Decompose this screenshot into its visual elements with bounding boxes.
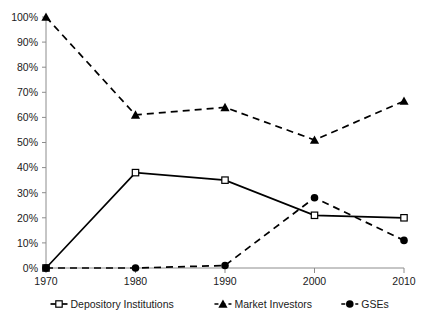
y-axis-tick-label: 10%	[17, 237, 38, 249]
legend-item[interactable]: Depository Institutions	[50, 298, 173, 310]
data-point	[221, 262, 229, 270]
series-market-investors	[41, 12, 408, 143]
data-point	[222, 177, 228, 183]
data-point	[42, 264, 50, 272]
legend-item-label: GSEs	[361, 298, 388, 310]
data-point	[311, 194, 319, 202]
legend-item-label: Market Investors	[234, 298, 312, 310]
series-depository-institutions	[43, 169, 407, 271]
y-axis-tick-label: 30%	[17, 187, 38, 199]
legend-marker	[218, 299, 227, 307]
x-axis-tick-label: 1970	[34, 275, 58, 287]
data-point	[311, 212, 317, 218]
y-axis-tick-label: 80%	[17, 61, 38, 73]
y-axis-tick-label: 70%	[17, 86, 38, 98]
x-axis-tick-label: 1980	[124, 275, 148, 287]
y-axis-tick-label: 0%	[23, 262, 38, 274]
x-axis-tick-label: 2000	[303, 275, 327, 287]
data-point	[399, 96, 408, 104]
y-axis-tick-label: 90%	[17, 36, 38, 48]
y-axis-tick-label: 20%	[17, 212, 38, 224]
y-axis-tick-label: 50%	[17, 136, 38, 148]
legend-marker	[346, 300, 354, 308]
x-axis-tick-label: 2010	[392, 275, 416, 287]
line-chart: 0%10%20%30%40%50%60%70%80%90%100%1970198…	[0, 0, 421, 322]
y-axis-tick-label: 60%	[17, 111, 38, 123]
series-line	[46, 173, 404, 268]
legend-marker	[56, 301, 62, 307]
y-axis-tick-label: 40%	[17, 161, 38, 173]
data-point	[132, 169, 138, 175]
data-point	[400, 237, 408, 245]
chart-canvas: 0%10%20%30%40%50%60%70%80%90%100%1970198…	[0, 0, 421, 322]
legend-item-label: Depository Institutions	[70, 298, 173, 310]
series-line	[46, 17, 404, 140]
y-axis-tick-label: 100%	[11, 11, 38, 23]
data-point	[401, 215, 407, 221]
x-axis-tick-label: 1990	[213, 275, 237, 287]
data-point	[132, 264, 140, 272]
legend-item[interactable]: GSEs	[341, 298, 388, 310]
series-gses	[42, 194, 408, 272]
legend-item[interactable]: Market Investors	[214, 298, 312, 310]
series-line	[46, 198, 404, 268]
